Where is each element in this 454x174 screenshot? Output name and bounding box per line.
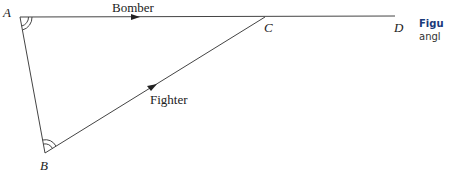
point-label-C: C [264, 20, 273, 35]
point-label-B: B [40, 158, 48, 173]
point-label-A: A [2, 5, 11, 20]
line-AD [20, 16, 395, 17]
fighter-arrow-icon [147, 84, 157, 91]
triangle-diagram: A B C D Bomber Fighter [0, 0, 454, 174]
figure-caption-title: Figu [419, 18, 444, 29]
angle-A-arc-inner [22, 17, 29, 26]
angle-A-arc-outer [23, 17, 33, 30]
angle-B-arc-inner [43, 144, 52, 149]
edge-label-fighter: Fighter [150, 92, 188, 107]
line-AB [20, 17, 45, 153]
edge-label-bomber: Bomber [112, 0, 155, 15]
figure-caption-text: angl [419, 31, 441, 42]
point-label-D: D [393, 20, 404, 35]
